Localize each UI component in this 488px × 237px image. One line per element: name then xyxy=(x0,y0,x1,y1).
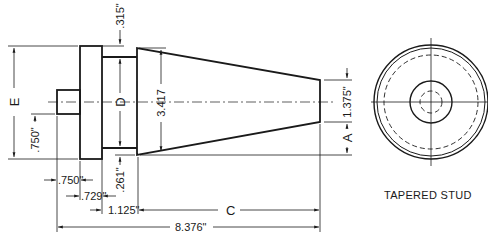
label-a: A xyxy=(340,133,355,142)
end-view xyxy=(371,38,488,166)
flange-outline xyxy=(80,46,102,159)
dim-taper-large-dia: 3.417 xyxy=(155,89,167,117)
dim-pin-height: .750" xyxy=(29,127,41,152)
dim-flange-thickness: .729" xyxy=(81,190,106,202)
tapered-stud-drawing: E .750" .315" D .261" 3.417 1.375" A xyxy=(0,0,488,237)
side-view xyxy=(48,46,333,159)
dim-pin-length: .750" xyxy=(58,174,83,186)
label-e: E xyxy=(7,97,22,106)
drawing-title: TAPERED STUD xyxy=(384,189,472,201)
label-c: C xyxy=(226,203,235,218)
label-d: D xyxy=(113,97,128,106)
dim-taper-small-dia: 1.375" xyxy=(341,86,353,118)
dim-neck-length: 1.125" xyxy=(108,204,140,216)
dim-neck-offset: .261" xyxy=(114,167,126,192)
dimensions: E .750" .315" D .261" 3.417 1.375" A xyxy=(7,3,355,233)
dim-overall-length: 8.376" xyxy=(175,221,207,233)
dim-flange-step: .315" xyxy=(114,3,126,28)
